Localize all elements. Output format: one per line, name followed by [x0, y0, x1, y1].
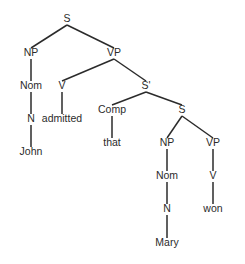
tree-node-Nom1: Nom	[20, 79, 42, 91]
tree-node-NP2: NP	[160, 136, 175, 148]
diagram-background	[0, 0, 245, 264]
tree-node-NP1: NP	[24, 46, 39, 58]
syntax-tree-diagram: SNPVPNomVS'NadmittedCompSJohnthatNPVPNom…	[0, 0, 245, 264]
tree-terminal-admitted: admitted	[42, 112, 82, 124]
tree-node-Comp: Comp	[98, 103, 126, 115]
tree-node-VP2: VP	[206, 136, 220, 148]
tree-terminal-John: John	[20, 145, 43, 157]
tree-node-N2: N	[163, 202, 171, 214]
tree-node-Sbar: S'	[141, 79, 150, 91]
tree-node-V1: V	[58, 79, 65, 91]
tree-terminal-that: that	[103, 136, 121, 148]
tree-node-S_inner: S	[178, 103, 185, 115]
tree-node-Nom2: Nom	[156, 169, 178, 181]
tree-terminal-Mary: Mary	[155, 236, 179, 248]
tree-node-S_root: S	[63, 12, 70, 24]
tree-terminal-won: won	[202, 202, 222, 214]
tree-node-VP1: VP	[107, 46, 121, 58]
tree-node-V2: V	[209, 169, 216, 181]
tree-node-N1: N	[27, 112, 35, 124]
